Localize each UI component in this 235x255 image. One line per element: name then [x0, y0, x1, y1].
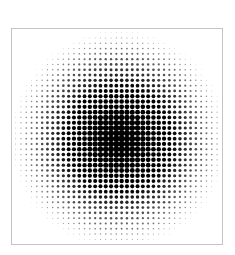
halftone-pattern — [12, 29, 222, 244]
image-frame — [11, 28, 223, 245]
